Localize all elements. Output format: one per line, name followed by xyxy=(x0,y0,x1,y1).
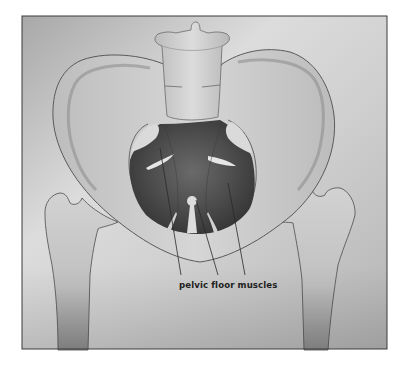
pelvic-floor-muscles-label: pelvic floor muscles xyxy=(179,280,277,290)
pelvis-illustration: pelvic floor muscles xyxy=(0,0,400,368)
pelvis-drawing xyxy=(0,0,400,368)
